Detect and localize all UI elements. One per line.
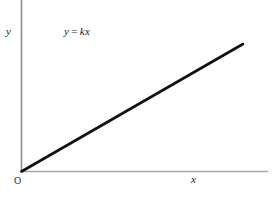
proportional-function-figure: y x O y=kx — [0, 0, 276, 202]
origin-label: O — [14, 176, 21, 186]
plot-canvas — [0, 0, 276, 202]
x-axis-label: x — [191, 174, 196, 185]
equation-operator: = — [69, 25, 80, 37]
equation-rhs: kx — [80, 25, 90, 37]
y-axis-label: y — [6, 26, 11, 37]
data-line-y-equals-kx — [22, 44, 244, 172]
equation-annotation: y=kx — [64, 25, 90, 37]
